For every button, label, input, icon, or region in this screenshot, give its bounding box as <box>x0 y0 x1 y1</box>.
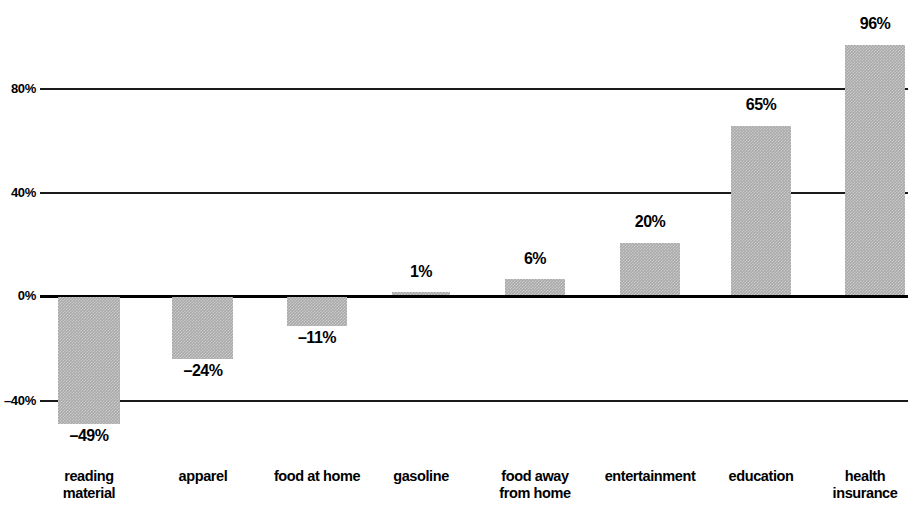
x-label-education: education <box>711 468 811 485</box>
x-label-gasoline-line1: gasoline <box>371 468 471 485</box>
bar-apparel <box>172 297 233 359</box>
y-axis-tick-80: 80% <box>0 82 36 95</box>
bar-health-insurance <box>845 45 905 295</box>
y-axis-tick-0: 0% <box>0 289 36 302</box>
value-label-food-away-from-home: 6% <box>495 251 575 267</box>
gridline-80 <box>40 88 908 90</box>
x-label-apparel-line1: apparel <box>153 468 253 485</box>
bar-food-at-home <box>287 297 347 326</box>
x-label-education-line1: education <box>711 468 811 485</box>
x-label-food-at-home: food at home <box>252 468 382 485</box>
plot-area: 80% 40% 0% –40% –49% –24% –11% 1% 6% 20%… <box>0 0 908 460</box>
x-label-reading-material: reading material <box>39 468 139 502</box>
y-axis-tick-40: 40% <box>0 186 36 199</box>
gridline-minus40 <box>40 400 908 402</box>
value-label-education: 65% <box>721 97 801 113</box>
x-label-entertainment: entertainment <box>580 468 720 485</box>
x-label-gasoline: gasoline <box>371 468 471 485</box>
x-label-food-away-from-home-line2: from home <box>485 485 585 502</box>
x-label-health-insurance: health insurance <box>822 468 908 502</box>
value-label-reading-material: –49% <box>49 428 129 444</box>
gridline-zero <box>40 295 908 298</box>
value-label-food-at-home: –11% <box>277 330 357 346</box>
x-label-reading-material-line1: reading <box>39 468 139 485</box>
value-label-entertainment: 20% <box>610 214 690 230</box>
x-label-health-insurance-line2: insurance <box>822 485 908 502</box>
x-axis-labels: reading material apparel food at home ga… <box>0 468 908 517</box>
bar-reading-material <box>58 297 120 424</box>
x-label-food-at-home-line1: food at home <box>252 468 382 485</box>
y-axis-tick-minus40: –40% <box>0 394 36 407</box>
value-label-apparel: –24% <box>163 363 243 379</box>
bar-gasoline <box>392 292 450 295</box>
x-label-health-insurance-line1: health <box>822 468 908 485</box>
bar-food-away-from-home <box>505 279 565 295</box>
bar-entertainment <box>620 243 680 295</box>
bar-education <box>731 126 791 295</box>
value-label-health-insurance: 96% <box>835 16 908 32</box>
x-label-apparel: apparel <box>153 468 253 485</box>
x-label-food-away-from-home: food away from home <box>485 468 585 502</box>
value-label-gasoline: 1% <box>381 264 461 280</box>
x-label-reading-material-line2: material <box>39 485 139 502</box>
bar-chart: 80% 40% 0% –40% –49% –24% –11% 1% 6% 20%… <box>0 0 908 517</box>
x-label-entertainment-line1: entertainment <box>580 468 720 485</box>
x-label-food-away-from-home-line1: food away <box>485 468 585 485</box>
